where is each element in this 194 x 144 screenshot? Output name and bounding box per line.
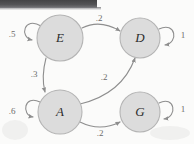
self-loop-label-A: .6 [9, 106, 16, 116]
edge-label-A-to-G: .2 [97, 128, 104, 138]
edge-E-to-D [82, 24, 120, 31]
edge-E-to-A [43, 58, 46, 92]
node-label-D: D [134, 30, 145, 45]
self-loop-label-E: .5 [9, 29, 16, 39]
edge-label-E-to-A: .3 [31, 69, 38, 79]
self-loop-D [159, 27, 174, 45]
node-label-G: G [135, 104, 145, 119]
self-loop-label-D: 1 [181, 30, 186, 40]
graph-svg: E D A G .2 .3 .2 .2 .5 1 .6 1 [0, 0, 194, 144]
node-label-A: A [55, 104, 64, 119]
edge-label-E-to-D: .2 [96, 13, 103, 23]
edge-label-A-to-D: .2 [101, 72, 108, 82]
self-loop-label-G: 1 [181, 104, 186, 114]
edge-A-to-G [80, 122, 120, 127]
node-label-E: E [55, 30, 64, 45]
self-loop-G [159, 101, 173, 119]
diagram-canvas: E D A G .2 .3 .2 .2 .5 1 .6 1 [0, 0, 194, 144]
